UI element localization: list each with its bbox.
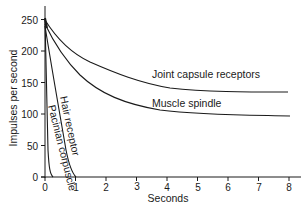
adaptation-chart: 0 50 100 150 200 250 0 1 2 3 4 5 6 7 8 S…	[0, 0, 308, 208]
x-tick-7: 7	[256, 182, 262, 193]
y-ticks	[41, 20, 45, 178]
joint-capsule-label: Joint capsule receptors	[152, 68, 260, 80]
x-tick-6: 6	[225, 182, 231, 193]
y-tick-0: 0	[32, 172, 38, 183]
x-tick-8: 8	[286, 182, 292, 193]
x-tick-3: 3	[134, 181, 140, 192]
joint-capsule-curve	[45, 20, 288, 92]
y-tick-labels: 0 50 100 150 200 250	[21, 15, 38, 184]
y-tick-150: 150	[21, 78, 38, 89]
x-axis-title: Seconds	[148, 192, 189, 204]
y-tick-50: 50	[27, 141, 39, 152]
muscle-spindle-label: Muscle spindle	[152, 97, 222, 109]
x-tick-2: 2	[103, 182, 109, 193]
x-tick-5: 5	[195, 182, 201, 193]
y-tick-250: 250	[21, 15, 38, 26]
y-tick-100: 100	[21, 109, 38, 120]
y-tick-200: 200	[21, 46, 38, 57]
y-axis-title: Impulses per second	[7, 49, 19, 146]
pacinian-corpuscle-curve	[45, 19, 53, 177]
x-ticks	[45, 177, 289, 181]
x-tick-0: 0	[42, 182, 48, 193]
